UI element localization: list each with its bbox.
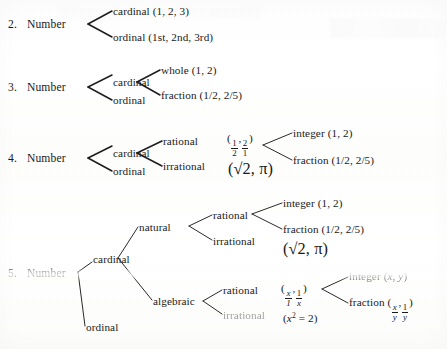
fraction-x-over-y: xy bbox=[392, 303, 398, 322]
tree-4-irrational: irrational bbox=[163, 161, 205, 172]
tree-5-cardinal: cardinal bbox=[93, 254, 130, 265]
tree-4-rational: rational bbox=[163, 136, 198, 147]
tree-5-algebraic-irrational-example: (x2 = 2) bbox=[283, 312, 318, 324]
tree-4-integer: integer (1, 2) bbox=[293, 128, 353, 139]
tree-4-root: 4. bbox=[8, 153, 17, 165]
tree-2-root: 2. bbox=[8, 19, 17, 31]
tree-2-cardinal: cardinal (1, 2, 3) bbox=[113, 6, 189, 17]
tree-5-algebraic-fraction: fraction (xy,1y) bbox=[349, 297, 413, 322]
fraction-label: fraction ( bbox=[349, 296, 391, 308]
tree-4-irrational-example: (√2, π) bbox=[228, 161, 273, 177]
tree-5-natural-rational: rational bbox=[213, 210, 248, 221]
tree-5-algebraic-rational: rational bbox=[223, 285, 258, 296]
fraction-x-over-1: x1 bbox=[285, 289, 292, 308]
tree-4-ordinal: ordinal bbox=[113, 166, 145, 177]
tree-5-algebraic: algebraic bbox=[153, 296, 195, 307]
tree-3-root: 3. bbox=[8, 82, 17, 94]
tree-3-ordinal: ordinal bbox=[113, 95, 145, 106]
paren-close: ) bbox=[249, 132, 253, 144]
tree-4-cardinal: cardinal bbox=[113, 148, 150, 159]
paren-close: ) bbox=[403, 270, 407, 282]
paren-open: ( bbox=[281, 282, 285, 294]
tree-3-whole: whole (1, 2) bbox=[161, 65, 217, 76]
tree-5-natural-fraction: fraction (1/2, 2/5) bbox=[283, 224, 364, 235]
tree-3-cardinal: cardinal bbox=[113, 77, 150, 88]
tree-5-root-label: Number bbox=[27, 268, 66, 280]
equals-2: = 2) bbox=[296, 312, 318, 324]
tree-3-fraction: fraction (1/2, 2/5) bbox=[161, 90, 242, 101]
tree-5-natural-irrational-example: (√2, π) bbox=[283, 241, 328, 257]
fraction-one-half: 12 bbox=[231, 139, 238, 158]
tree-4-root-label: Number bbox=[27, 153, 66, 165]
paren-close: ) bbox=[303, 282, 307, 294]
fraction-1-over-y: 1y bbox=[402, 303, 409, 322]
tree-5-algebraic-irrational: irrational bbox=[223, 310, 265, 321]
fraction-two-over-one: 21 bbox=[242, 139, 249, 158]
tree-5-algebraic-integer: integer (x, y) bbox=[349, 271, 407, 282]
paren-close: ) bbox=[409, 296, 413, 308]
tree-4-rational-example: (12,21) bbox=[227, 133, 253, 158]
tree-4-fraction: fraction (1/2, 2/5) bbox=[293, 155, 374, 166]
scanned-page: 2. Number cardinal (1, 2, 3) ordinal (1s… bbox=[0, 0, 447, 349]
paren-open: ( bbox=[227, 132, 231, 144]
tree-5-ordinal: ordinal bbox=[86, 322, 118, 333]
tree-5-root: 5. bbox=[8, 268, 17, 280]
tree-5-algebraic-rational-example: (x1,1x) bbox=[281, 283, 307, 308]
tree-5-natural-integer: integer (1, 2) bbox=[283, 198, 343, 209]
tree-5-natural: natural bbox=[139, 222, 171, 233]
tree-2-ordinal: ordinal (1st, 2nd, 3rd) bbox=[113, 32, 213, 43]
tree-5-natural-irrational: irrational bbox=[213, 236, 255, 247]
tree-2-root-label: Number bbox=[27, 19, 66, 31]
integer-label: integer ( bbox=[349, 270, 387, 282]
fraction-1-over-x: 1x bbox=[296, 289, 303, 308]
tree-3-root-label: Number bbox=[27, 82, 66, 94]
